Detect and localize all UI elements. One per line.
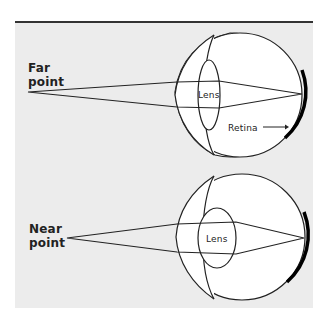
top-lens-label: Lens <box>198 88 220 102</box>
retina-label: Retina <box>228 121 258 135</box>
near-point-label: Near point <box>29 222 65 250</box>
near-label-line1: Near <box>29 222 65 236</box>
bottom-lens-label: Lens <box>206 232 228 246</box>
far-label-line1: Far <box>28 61 64 75</box>
far-label-line2: point <box>28 75 64 89</box>
far-eye <box>28 33 306 157</box>
eye-diagram <box>0 0 328 321</box>
near-label-line2: point <box>29 236 65 250</box>
far-point-label: Far point <box>28 61 64 89</box>
near-eye <box>67 174 308 300</box>
